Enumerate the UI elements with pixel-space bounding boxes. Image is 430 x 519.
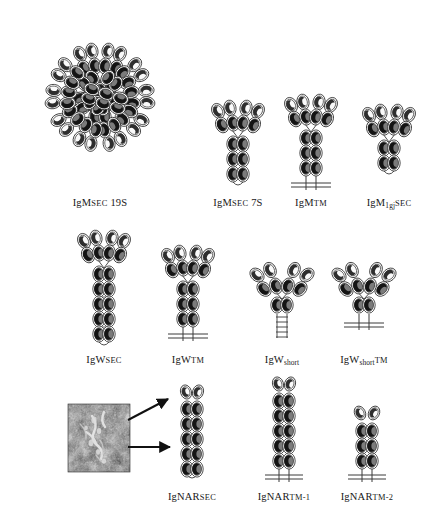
- label-ignar-tm-1-smallcaps: TM-1: [290, 493, 311, 502]
- label-igw-short-tm-smallcaps: TM: [375, 356, 388, 365]
- structure-igw-tm: [159, 244, 217, 341]
- label-igm-1gj-sec-smallcaps: SEC: [395, 199, 411, 208]
- label-igm-sec-19s: IgMSEC 19S: [73, 198, 128, 209]
- label-igm-tm-smallcaps: TM: [314, 199, 327, 208]
- label-igw-short-subscript: short: [284, 358, 299, 367]
- structure-igm-1gj-sec: [360, 103, 418, 174]
- label-igw-short-tm-subscript: short: [359, 358, 374, 367]
- structure-ignar-tm-2: [348, 404, 386, 482]
- label-igw-tm: IgWTM: [172, 355, 204, 366]
- membrane-anchor-ignar-tm-2: [348, 469, 386, 482]
- label-igm-sec-7s-name: IgM: [213, 197, 232, 208]
- label-igw-tm-smallcaps: TM: [191, 356, 204, 365]
- label-igw-short-tm: IgWshortTM: [340, 355, 388, 366]
- label-ignar-sec-name: IgNAR: [168, 491, 200, 502]
- membrane-anchor-ignar-tm-1: [265, 469, 303, 482]
- structure-igm-sec-19s: [39, 42, 161, 159]
- structure-igw-short: [247, 260, 317, 338]
- label-igw-sec: IgWSEC: [86, 355, 122, 366]
- structure-igw-sec: [75, 229, 133, 345]
- label-ignar-tm-2-smallcaps: TM-2: [373, 493, 394, 502]
- structure-igm-tm: [282, 93, 340, 190]
- label-igm-1gj-sec-subscript: 1gj: [385, 201, 395, 210]
- micrograph-arrows: [128, 399, 170, 447]
- membrane-anchor-igw-tm: [168, 327, 208, 341]
- label-ignar-tm-1: IgNARTM-1: [258, 492, 311, 503]
- label-igm-tm-name: IgM: [295, 197, 314, 208]
- label-igm-1gj-sec-name: IgM: [367, 197, 386, 208]
- spring-tail-igw-short: [276, 314, 288, 338]
- structure-igw-short-tm: [329, 260, 399, 330]
- label-igm-tm: IgMTM: [295, 198, 327, 209]
- label-igw-short: IgWshort: [265, 355, 300, 366]
- structure-ignar-sec: [179, 383, 206, 478]
- label-igm-1gj-sec: IgM1gjSEC: [367, 198, 412, 209]
- label-ignar-sec-smallcaps: SEC: [200, 493, 216, 502]
- label-igw-short-name: IgW: [265, 354, 284, 365]
- label-ignar-tm-2: IgNARTM-2: [341, 492, 394, 503]
- figure-canvas: [0, 0, 430, 519]
- label-igm-sec-19s-name: IgM: [73, 197, 92, 208]
- arrow-upper: [128, 399, 168, 420]
- label-igw-tm-name: IgW: [172, 354, 191, 365]
- label-igm-sec-7s-suffix: 7S: [251, 197, 263, 208]
- label-igw-sec-name: IgW: [86, 354, 105, 365]
- label-ignar-tm-1-name: IgNAR: [258, 491, 290, 502]
- membrane-anchor-igw-short-tm: [344, 314, 384, 330]
- label-igw-short-tm-name: IgW: [340, 354, 359, 365]
- label-ignar-tm-2-name: IgNAR: [341, 491, 373, 502]
- label-igm-sec-19s-smallcaps: SEC: [91, 199, 107, 208]
- label-igm-sec-7s: IgMSEC 7S: [213, 198, 262, 209]
- structure-ignar-tm-1: [265, 375, 303, 482]
- electron-micrograph: [68, 404, 130, 472]
- membrane-anchor-igm-tm: [291, 176, 331, 190]
- label-igw-sec-smallcaps: SEC: [106, 356, 122, 365]
- label-igm-sec-19s-suffix: 19S: [110, 197, 127, 208]
- immunoglobulin-figure: IgMSEC 19S IgMSEC 7S IgMTM IgM1gjSEC IgW…: [0, 0, 430, 519]
- label-igm-sec-7s-smallcaps: SEC: [232, 199, 248, 208]
- structure-igm-sec-7s: [209, 99, 267, 185]
- label-ignar-sec: IgNARSEC: [168, 492, 216, 503]
